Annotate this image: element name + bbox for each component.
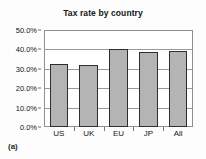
y-tick-mark [38, 127, 41, 128]
x-tick-label-eu: EU [113, 129, 124, 138]
y-axis: 0.0%10.0%20.0%30.0%40.0%50.0% [0, 30, 41, 127]
bar-slot [50, 30, 68, 127]
y-tick-label: 50.0% [16, 26, 37, 35]
bar-eu [109, 49, 127, 127]
y-tick-mark [38, 68, 41, 69]
x-tick-label-jp: JP [144, 129, 153, 138]
bar-slot [79, 30, 97, 127]
y-tick-label: 0.0% [20, 123, 37, 132]
bar-slot [109, 30, 127, 127]
y-tick-label: 40.0% [16, 45, 37, 54]
bar-uk [79, 65, 97, 127]
bar-us [50, 64, 68, 127]
y-tick-label: 10.0% [16, 103, 37, 112]
bar-slot [169, 30, 187, 127]
y-tick-label: 20.0% [16, 84, 37, 93]
figure-panel: Tax rate by country 0.0%10.0%20.0%30.0%4… [0, 0, 206, 159]
x-axis: USUKEUJPAll [44, 129, 193, 143]
x-tick-label-uk: UK [83, 129, 94, 138]
chart-title: Tax rate by country [0, 8, 206, 18]
bar-jp [139, 52, 157, 127]
y-tick-mark [38, 30, 41, 31]
y-tick-mark [38, 107, 41, 108]
x-tick-label-all: All [174, 129, 183, 138]
y-tick-label: 30.0% [16, 64, 37, 73]
y-tick-mark [38, 49, 41, 50]
bars-layer [44, 30, 193, 127]
bar-slot [139, 30, 157, 127]
panel-caption: (a) [8, 142, 18, 151]
bar-all [169, 51, 187, 127]
y-tick-mark [38, 88, 41, 89]
x-tick-label-us: US [53, 129, 64, 138]
